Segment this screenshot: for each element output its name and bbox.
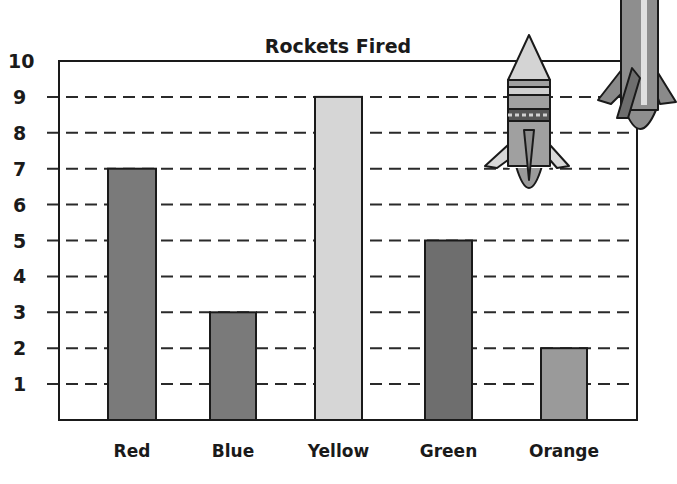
y-axis-ticks: 12345678910	[8, 50, 34, 395]
y-tick-label: 1	[13, 373, 26, 395]
y-tick-label: 10	[8, 50, 34, 72]
y-tick-label: 2	[13, 337, 26, 359]
rocket-illustration	[485, 35, 569, 188]
x-tick-label: Green	[420, 441, 478, 461]
y-tick-label: 7	[13, 158, 26, 180]
x-axis-labels: RedBlueYellowGreenOrange	[114, 441, 599, 461]
y-tick-label: 5	[13, 230, 26, 252]
x-tick-label: Red	[114, 441, 151, 461]
y-tick-label: 9	[13, 86, 26, 108]
bar-green	[425, 241, 472, 421]
bar-yellow	[315, 97, 362, 420]
chart-title: Rockets Fired	[265, 35, 411, 57]
rocket-illustration	[598, 0, 676, 129]
bar-red	[108, 169, 156, 420]
x-tick-label: Orange	[529, 441, 599, 461]
x-tick-label: Blue	[212, 441, 254, 461]
y-tick-label: 3	[13, 301, 26, 323]
y-tick-label: 6	[13, 194, 26, 216]
x-tick-label: Yellow	[307, 441, 370, 461]
rockets-fired-bar-chart: Rockets Fired 12345678910 RedBlueYellowG…	[0, 0, 677, 484]
bar-orange	[541, 348, 587, 420]
y-tick-label: 8	[13, 122, 26, 144]
y-tick-label: 4	[13, 265, 26, 287]
bar-blue	[210, 312, 256, 420]
